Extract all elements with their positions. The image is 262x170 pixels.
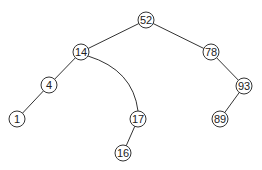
tree-node-78: 78 <box>203 44 219 60</box>
node-label: 4 <box>46 79 52 91</box>
node-label: 17 <box>132 113 144 125</box>
tree-node-14: 14 <box>73 44 89 60</box>
edge-52-78 <box>146 20 211 52</box>
tree-node-4: 4 <box>41 77 57 93</box>
edge-14-17-curved <box>88 56 138 111</box>
tree-node-89: 89 <box>212 111 228 127</box>
node-label: 16 <box>117 147 129 159</box>
node-label: 1 <box>14 113 20 125</box>
node-label: 89 <box>214 113 226 125</box>
tree-diagram: 52 14 78 4 93 1 17 89 16 <box>0 0 262 170</box>
tree-node-52: 52 <box>138 12 154 28</box>
node-label: 93 <box>238 80 250 92</box>
node-label: 14 <box>75 46 87 58</box>
node-label: 52 <box>140 14 152 26</box>
tree-node-1: 1 <box>9 111 25 127</box>
tree-node-93: 93 <box>236 78 252 94</box>
tree-node-17: 17 <box>130 111 146 127</box>
edge-52-14 <box>81 20 146 52</box>
node-label: 78 <box>205 46 217 58</box>
tree-node-16: 16 <box>115 145 131 161</box>
